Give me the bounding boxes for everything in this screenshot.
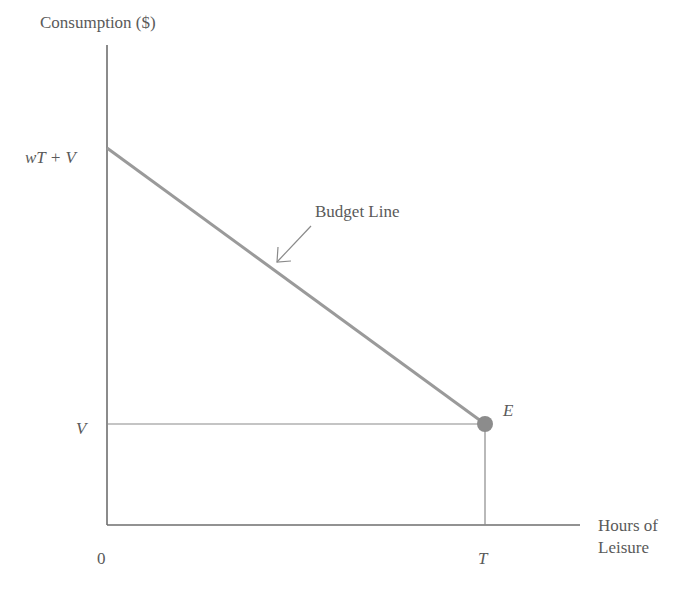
y-axis-label: Consumption ($): [40, 13, 156, 32]
budget-line-diagram: Consumption ($) E Budget Line wT + V V 0…: [0, 0, 690, 590]
y-tick-wt-plus-v: wT + V: [25, 148, 78, 167]
x-tick-t: T: [478, 549, 489, 568]
x-axis-label-line1: Hours of: [598, 516, 658, 535]
budget-line: [107, 148, 485, 424]
budget-line-label: Budget Line: [315, 202, 400, 221]
x-tick-origin: 0: [97, 549, 106, 568]
annotation-arrow-icon: [277, 226, 311, 262]
diagram-canvas: Consumption ($) E Budget Line wT + V V 0…: [0, 0, 690, 590]
y-tick-v: V: [76, 419, 89, 438]
endowment-point-e: [477, 416, 493, 432]
x-axis-label-line2: Leisure: [598, 538, 649, 557]
point-e-label: E: [502, 401, 514, 420]
